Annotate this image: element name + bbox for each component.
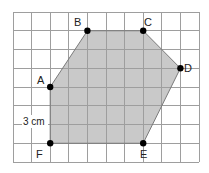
diagram-canvas: A B C D E F 3 cm: [0, 0, 209, 173]
point-c: [140, 28, 146, 34]
point-d: [177, 65, 183, 71]
point-f: [47, 140, 53, 146]
length-label: 3 cm: [23, 116, 45, 127]
label-e: E: [140, 148, 147, 160]
label-d: D: [184, 62, 192, 74]
point-a: [47, 84, 53, 90]
point-b: [84, 28, 90, 34]
label-f: F: [36, 148, 43, 160]
diagram-svg: A B C D E F 3 cm: [0, 0, 209, 173]
label-b: B: [74, 16, 81, 28]
label-c: C: [144, 16, 152, 28]
point-e: [140, 140, 146, 146]
label-a: A: [37, 74, 45, 86]
